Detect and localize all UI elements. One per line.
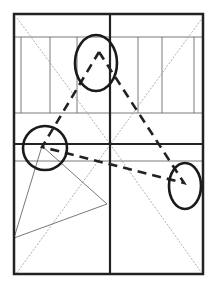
background: [0, 0, 214, 291]
diagram-canvas: [0, 0, 214, 291]
composition-diagram: [0, 0, 214, 291]
